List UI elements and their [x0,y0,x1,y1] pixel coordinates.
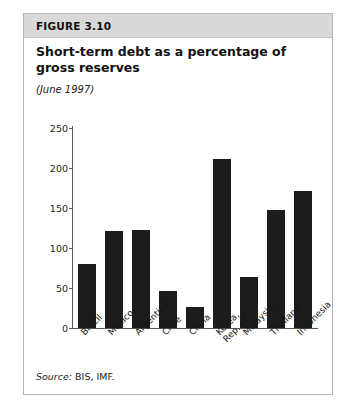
y-tick-label: 0 [62,323,68,334]
y-tick-mark [69,208,73,209]
bar-series [73,128,317,328]
y-tick-label: 250 [50,123,68,134]
source-label: Source: [36,371,72,382]
bar-chart: 050100150200250 BrazilMexicoArgentinaChi… [24,14,334,396]
bar [213,159,231,328]
figure-panel: FIGURE 3.10 Short-term debt as a percent… [23,13,333,395]
source-value: BIS, IMF. [72,371,114,382]
y-tick-mark [69,128,73,129]
bar [105,231,123,328]
y-tick-label: 50 [56,283,68,294]
y-tick-mark [69,328,73,329]
y-tick-label: 200 [50,163,68,174]
y-tick-label: 100 [50,243,68,254]
y-tick-mark [69,248,73,249]
y-tick-label: 150 [50,203,68,214]
y-tick-mark [69,288,73,289]
y-tick-mark [69,168,73,169]
y-axis-tick-labels: 050100150200250 [24,128,68,328]
source-note: Source: BIS, IMF. [36,371,114,382]
